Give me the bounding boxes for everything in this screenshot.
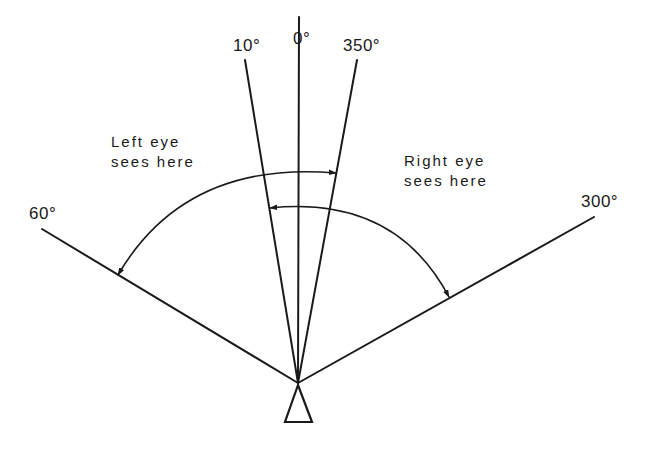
label-300-degrees: 300° [581, 193, 618, 210]
left-eye-arc [118, 172, 336, 275]
ray-60 [42, 229, 298, 383]
left-eye-line1: Left eye [111, 132, 195, 152]
right-eye-line1: Right eye [404, 151, 488, 171]
visual-field-diagram [0, 0, 652, 452]
observer-triangle-icon [285, 385, 312, 422]
left-eye-annotation: Left eye sees here [111, 132, 195, 172]
ray-0 [298, 17, 299, 383]
left-eye-line2: sees here [111, 152, 195, 172]
label-10-degrees: 10° [233, 37, 260, 54]
label-0-degrees: 0° [293, 30, 310, 47]
ray-300 [298, 217, 594, 383]
ray-350 [298, 60, 357, 383]
ray-10 [245, 60, 298, 383]
right-eye-annotation: Right eye sees here [404, 151, 488, 191]
label-350-degrees: 350° [343, 37, 380, 54]
label-60-degrees: 60° [29, 205, 56, 222]
right-eye-line2: sees here [404, 171, 488, 191]
right-eye-arc [270, 207, 449, 297]
